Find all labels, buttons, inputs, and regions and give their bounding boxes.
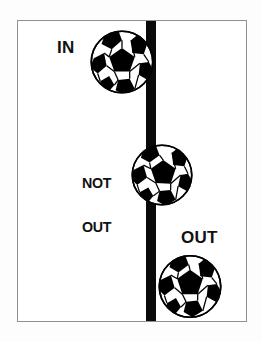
soccer-ball-out [158, 253, 222, 320]
figure-canvas: IN NOT OUT OUT [0, 0, 262, 342]
label-in: IN [57, 39, 74, 56]
label-not-out-line1: NOT [82, 176, 111, 191]
label-not-out: NOT OUT [82, 146, 111, 265]
diagram-panel: IN NOT OUT OUT [17, 20, 247, 322]
label-not-out-line2: OUT [82, 220, 111, 235]
label-out: OUT [181, 229, 217, 246]
soccer-ball-in [90, 28, 154, 96]
soccer-ball-not-out [131, 143, 193, 207]
